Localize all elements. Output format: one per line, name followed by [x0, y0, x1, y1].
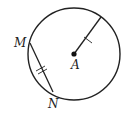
label-n: N: [47, 97, 59, 111]
label-m: M: [13, 36, 27, 50]
center-point: [71, 51, 76, 56]
label-a: A: [70, 58, 80, 72]
circle-diagram: M A N: [0, 0, 125, 114]
radius-tick-mark: [84, 37, 92, 43]
radius-segment: [74, 17, 101, 54]
